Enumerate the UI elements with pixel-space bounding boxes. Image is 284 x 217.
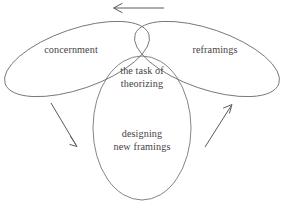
designing-label-line2: new framings xyxy=(92,141,192,154)
theorizing-venn-figure: concernment reframings the task of theor… xyxy=(0,0,284,217)
venn-diagram-canvas xyxy=(0,0,284,217)
central-task-label-line2: theorizing xyxy=(92,78,192,91)
arrow-top-leftward xyxy=(114,4,165,13)
concernment-lobe-outline xyxy=(0,6,159,112)
arrow-right-upward xyxy=(205,105,232,148)
reframings-lobe-outline xyxy=(125,6,284,112)
reframings-label: reframings xyxy=(146,44,284,57)
arrow-left-downward xyxy=(51,103,77,147)
concernment-label: concernment xyxy=(0,44,142,57)
central-task-label-line1: the task of xyxy=(92,65,192,78)
designing-label-line1: designing xyxy=(92,128,192,141)
central-task-label: the task of theorizing xyxy=(92,65,192,90)
designing-new-framings-label: designing new framings xyxy=(92,128,192,153)
